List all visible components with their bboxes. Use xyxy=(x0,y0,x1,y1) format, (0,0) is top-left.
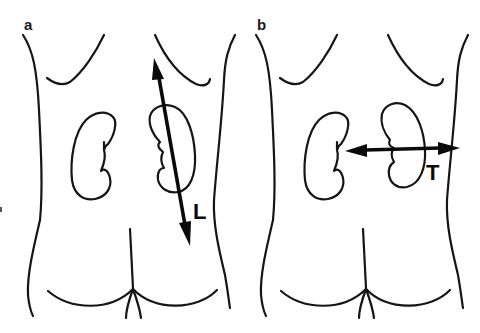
transverse-arrow xyxy=(345,142,460,157)
transverse-label: T xyxy=(426,160,440,185)
length-label: L xyxy=(193,199,206,224)
length-arrow xyxy=(152,58,191,246)
stray-mark xyxy=(0,207,2,212)
panel-a: a L xyxy=(23,16,235,318)
panel-b: b T xyxy=(256,16,468,318)
panel-label-b: b xyxy=(257,16,266,33)
panel-label-a: a xyxy=(24,16,33,33)
torso-outline-a xyxy=(23,35,235,318)
kidney-right-b xyxy=(382,103,426,187)
kidney-measurement-figure: a L b T xyxy=(0,0,480,333)
